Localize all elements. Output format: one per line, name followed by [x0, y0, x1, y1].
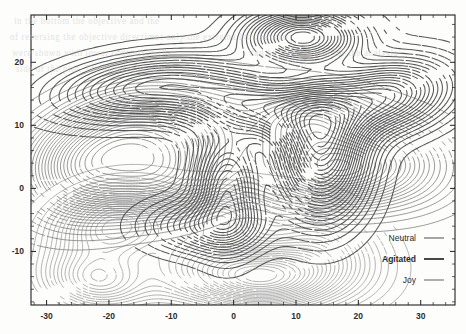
- x-tick-label: 0: [231, 311, 236, 321]
- legend-label-neutral: Neutral: [389, 233, 417, 243]
- y-tick-label: 0: [19, 183, 24, 193]
- y-tick-label: -10: [12, 246, 25, 256]
- plot-legend: NeutralAgitatedJoy: [382, 233, 444, 285]
- contour-plot-figure: in the bottom the objective and the of r…: [0, 0, 466, 334]
- x-tick-label: -30: [40, 311, 53, 321]
- x-tick-label: 30: [416, 311, 426, 321]
- y-tick-label: 10: [15, 120, 25, 130]
- plot-canvas: -30-20-10010203020100-10 NeutralAgitated…: [0, 0, 466, 334]
- plot-axes: -30-20-10010203020100-10: [12, 15, 455, 321]
- x-tick-label: 20: [354, 311, 364, 321]
- x-tick-label: -10: [165, 311, 178, 321]
- x-tick-label: -20: [103, 311, 116, 321]
- legend-label-joy: Joy: [403, 275, 417, 285]
- x-tick-label: 10: [291, 311, 301, 321]
- contour-series-joy: [31, 57, 455, 250]
- legend-label-agitated: Agitated: [382, 254, 416, 264]
- y-tick-label: 20: [15, 57, 25, 67]
